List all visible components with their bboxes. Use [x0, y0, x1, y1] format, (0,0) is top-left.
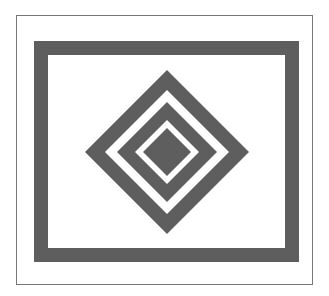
- nested-diamonds-figure: [0, 0, 329, 296]
